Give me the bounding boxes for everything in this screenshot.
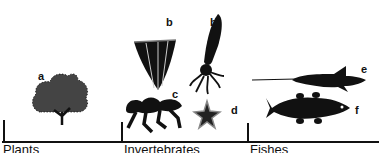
label-b-cone: b <box>166 17 173 28</box>
group-label-plants: Plants <box>3 143 39 153</box>
starfish-icon <box>194 101 220 128</box>
armored-fish-icon <box>252 66 366 92</box>
conulariid-icon <box>134 40 176 90</box>
figure-artwork <box>0 0 379 153</box>
trilobite-arthropod-icon <box>126 98 182 133</box>
evolution-figure: a b b c d e f Plants Invertebrates Fishe… <box>0 0 379 153</box>
label-b-squid: b <box>210 17 217 28</box>
timeline-axis <box>2 120 379 142</box>
group-label-fishes: Fishes <box>250 143 288 153</box>
label-a: a <box>38 71 44 82</box>
squid-icon <box>190 14 224 94</box>
group-label-invertebrates: Invertebrates <box>124 143 200 153</box>
label-c: c <box>172 89 178 100</box>
label-e: e <box>361 64 367 75</box>
label-f: f <box>355 105 359 116</box>
label-d: d <box>231 105 238 116</box>
lobe-finned-fish-icon <box>266 92 350 124</box>
